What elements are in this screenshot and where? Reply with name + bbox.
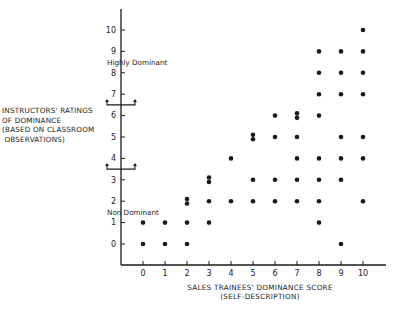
data-point [295, 116, 300, 121]
data-point [185, 220, 190, 225]
data-point [317, 92, 322, 97]
data-point [317, 49, 322, 54]
data-point [317, 156, 322, 161]
x-tick-label: 1 [162, 269, 167, 278]
x-tick-label: 3 [206, 269, 211, 278]
data-point [141, 242, 146, 247]
x-axis-subtitle: (SELF-DESCRIPTION) [160, 292, 360, 301]
data-point [317, 113, 322, 118]
scatter-plot: 012345678910 012345678910 Highly Dominan… [0, 0, 393, 309]
y-tick-label: 9 [111, 47, 116, 56]
data-point [339, 178, 344, 183]
x-tick-label: 6 [272, 269, 277, 278]
y-tick-label: 3 [111, 176, 116, 185]
arrow-up-icon [133, 163, 137, 166]
data-point [273, 135, 278, 140]
x-axis-label: SALES TRAINEES' DOMINANCE SCORE (SELF-DE… [160, 283, 360, 301]
data-point [251, 178, 256, 183]
y-tick-label: 5 [111, 133, 116, 142]
data-point [207, 180, 212, 185]
data-point [207, 199, 212, 204]
data-point [273, 199, 278, 204]
x-tick-label: 2 [184, 269, 189, 278]
data-point [295, 135, 300, 140]
x-tick-label: 10 [358, 269, 368, 278]
data-point [361, 49, 366, 54]
data-point [185, 242, 190, 247]
data-point [317, 178, 322, 183]
data-points [141, 28, 366, 247]
data-point [295, 111, 300, 116]
data-point [163, 242, 168, 247]
data-point [229, 199, 234, 204]
data-point [339, 135, 344, 140]
data-point [207, 220, 212, 225]
data-point [317, 199, 322, 204]
data-point [207, 175, 212, 180]
data-point [317, 220, 322, 225]
y-tick-label: 4 [111, 154, 116, 163]
data-point [295, 199, 300, 204]
category-label: Non Dominant [107, 208, 159, 217]
x-axis-title: SALES TRAINEES' DOMINANCE SCORE [160, 283, 360, 292]
data-point [361, 28, 366, 33]
y-axis-label: INSTRUCTORS' RATINGS OF DOMINANCE (BASED… [2, 106, 94, 144]
data-point [339, 92, 344, 97]
data-point [251, 137, 256, 142]
x-tick-label: 7 [294, 269, 299, 278]
y-tick-label: 7 [111, 90, 116, 99]
data-point [185, 197, 190, 202]
x-axis-ticks: 012345678910 [140, 261, 368, 278]
x-tick-label: 9 [338, 269, 343, 278]
data-point [361, 71, 366, 76]
x-tick-label: 5 [250, 269, 255, 278]
data-point [361, 199, 366, 204]
data-point [339, 71, 344, 76]
arrow-up-icon [105, 163, 109, 166]
data-point [317, 71, 322, 76]
data-point [339, 242, 344, 247]
data-point [185, 201, 190, 206]
data-point [229, 156, 234, 161]
data-point [141, 220, 146, 225]
arrow-up-icon [133, 99, 137, 102]
data-point [361, 156, 366, 161]
category-label: Highly Dominant [107, 58, 168, 67]
x-tick-label: 0 [140, 269, 145, 278]
data-point [251, 132, 256, 137]
arrow-up-icon [105, 99, 109, 102]
data-point [361, 135, 366, 140]
y-tick-label: 2 [111, 197, 116, 206]
data-point [361, 92, 366, 97]
data-point [339, 49, 344, 54]
y-tick-label: 1 [111, 218, 116, 227]
y-tick-label: 10 [106, 26, 116, 35]
data-point [251, 199, 256, 204]
data-point [273, 178, 278, 183]
x-tick-label: 4 [228, 269, 233, 278]
data-point [295, 156, 300, 161]
data-point [295, 178, 300, 183]
y-tick-label: 8 [111, 69, 116, 78]
data-point [339, 156, 344, 161]
data-point [163, 220, 168, 225]
axes [121, 9, 386, 265]
y-tick-label: 6 [111, 111, 116, 120]
x-tick-label: 8 [316, 269, 321, 278]
data-point [273, 113, 278, 118]
y-tick-label: 0 [111, 240, 116, 249]
